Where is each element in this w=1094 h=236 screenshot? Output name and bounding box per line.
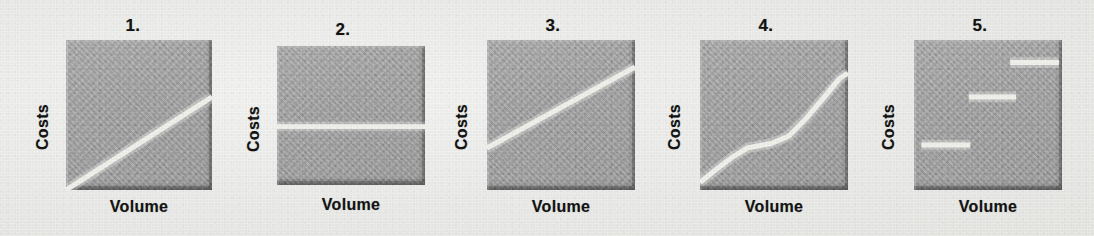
cost-behavior-figure-set: 1. Costs Volume 2. Costs Volume 3. Costs bbox=[0, 0, 1094, 236]
figure-4-curve-chart bbox=[700, 40, 848, 190]
figure-3-y-axis-label: Costs bbox=[453, 92, 471, 162]
figure-1: 1. Costs Volume bbox=[24, 8, 224, 230]
figure-2-plot-area bbox=[277, 46, 425, 185]
figure-4-y-axis-label: Costs bbox=[666, 92, 684, 162]
figure-4-x-axis-label: Volume bbox=[700, 198, 848, 216]
figure-1-y-axis-label: Costs bbox=[34, 92, 52, 162]
figure-3-line-chart bbox=[487, 40, 635, 190]
figure-2-line-chart bbox=[277, 46, 425, 185]
figure-5-x-axis-label: Volume bbox=[914, 198, 1062, 216]
figure-4-number: 4. bbox=[676, 16, 856, 36]
figure-2: 2. Costs Volume bbox=[233, 8, 433, 230]
figure-5: 5. Costs Volume bbox=[872, 8, 1072, 230]
figure-1-x-axis-label: Volume bbox=[66, 198, 212, 216]
figure-5-step-chart bbox=[914, 40, 1062, 190]
figure-5-plot-area bbox=[914, 40, 1062, 190]
figure-5-number: 5. bbox=[888, 16, 1072, 36]
figure-4-plot-area bbox=[700, 40, 848, 190]
figure-2-y-axis-label: Costs bbox=[245, 94, 263, 164]
figure-1-number: 1. bbox=[42, 16, 224, 36]
figure-2-number: 2. bbox=[253, 20, 433, 40]
figure-3-number: 3. bbox=[463, 16, 643, 36]
figure-3-x-axis-label: Volume bbox=[487, 198, 635, 216]
figure-1-line-chart bbox=[66, 40, 212, 190]
figure-4: 4. Costs Volume bbox=[656, 8, 856, 230]
figure-2-x-axis-label: Volume bbox=[277, 196, 425, 214]
figure-3-plot-area bbox=[487, 40, 635, 190]
figure-1-plot-area bbox=[66, 40, 212, 190]
figure-3: 3. Costs Volume bbox=[443, 8, 643, 230]
figure-5-y-axis-label: Costs bbox=[880, 92, 898, 162]
